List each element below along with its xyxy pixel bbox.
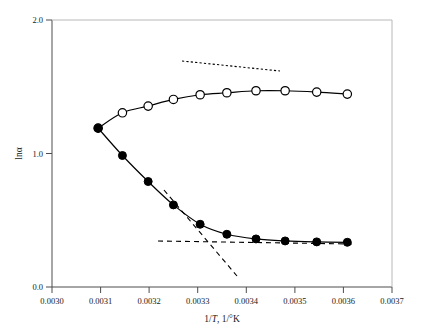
data-point-filled — [118, 152, 126, 160]
x-tick-labels: 0.0030 0.0031 0.0032 0.0033 0.0034 0.003… — [40, 296, 403, 306]
series-upper-branch-open-circles — [94, 87, 352, 133]
data-point-open — [252, 87, 260, 95]
data-series-layer — [94, 87, 352, 247]
x-tick-label: 0.0031 — [89, 296, 112, 306]
x-tick-label: 0.0033 — [186, 296, 209, 306]
x-axis-title: 1/T, 1/°K — [204, 314, 240, 324]
data-point-filled — [252, 235, 260, 243]
data-point-filled — [343, 238, 351, 246]
plot-frame — [52, 20, 392, 287]
data-point-open — [281, 87, 289, 95]
x-tick-label: 0.0037 — [380, 296, 403, 306]
x-tick-label: 0.0032 — [137, 296, 160, 306]
x-axis-ticks — [52, 287, 392, 293]
y-axis-ticks — [46, 20, 52, 287]
y-tick-label: 0.0 — [32, 282, 43, 292]
data-point-filled — [94, 124, 102, 132]
data-point-filled — [196, 220, 204, 228]
series-line — [98, 128, 347, 242]
data-point-filled — [281, 237, 289, 245]
data-point-open — [118, 109, 126, 117]
y-axis-title: lnα — [14, 147, 24, 159]
data-point-filled — [313, 238, 321, 246]
y-tick-label: 1.0 — [32, 149, 43, 159]
data-point-open — [223, 89, 231, 97]
x-tick-label: 0.0030 — [40, 296, 63, 306]
data-point-open — [169, 95, 177, 103]
data-point-open — [343, 90, 351, 98]
data-point-open — [144, 102, 152, 110]
upper-asymptote-dotted-line — [182, 61, 280, 71]
x-tick-label: 0.0034 — [235, 296, 259, 306]
y-tick-labels: 2.0 1.0 0.0 — [32, 15, 43, 292]
series-lower-branch-filled-circles — [94, 124, 351, 246]
y-tick-label: 2.0 — [32, 15, 43, 25]
data-point-filled — [169, 201, 177, 209]
series-line — [98, 91, 347, 129]
data-point-open — [196, 91, 204, 99]
data-point-open — [313, 88, 321, 96]
chart-figure: 2.0 1.0 0.0 0.0030 0.0031 0.0032 0.0033 … — [0, 0, 423, 331]
data-point-filled — [144, 178, 152, 186]
data-point-filled — [223, 230, 231, 238]
arrhenius-plot-svg: 2.0 1.0 0.0 0.0030 0.0031 0.0032 0.0033 … — [0, 0, 423, 331]
x-tick-label: 0.0035 — [283, 296, 306, 306]
x-tick-label: 0.0036 — [332, 296, 355, 306]
